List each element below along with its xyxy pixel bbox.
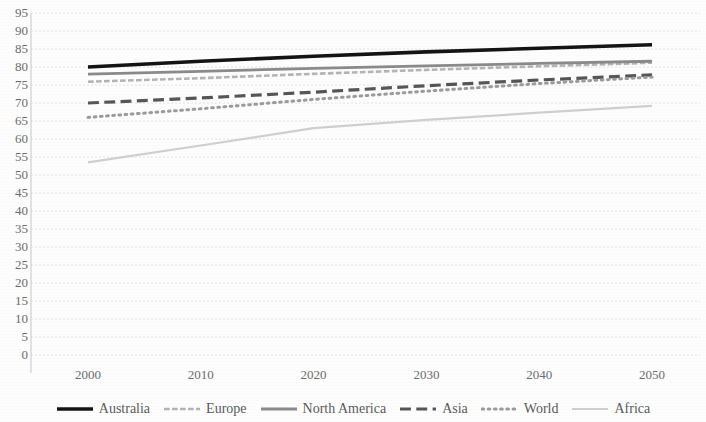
line-chart: 95908580757065605550454035302520151050 2… bbox=[0, 0, 706, 422]
legend-label: Africa bbox=[614, 402, 650, 416]
legend-swatch-africa-icon bbox=[571, 404, 609, 414]
legend-label: Europe bbox=[206, 402, 246, 416]
legend-label: North America bbox=[303, 402, 387, 416]
legend-label: Asia bbox=[442, 402, 468, 416]
legend-label: World bbox=[524, 402, 559, 416]
legend-swatch-world-icon bbox=[481, 404, 519, 414]
x-tick-label: 2030 bbox=[396, 368, 456, 381]
x-tick-label: 2000 bbox=[58, 368, 118, 381]
legend-item-world[interactable]: World bbox=[481, 402, 559, 416]
x-axis-tick-labels: 200020102020203020402050 bbox=[0, 0, 706, 422]
legend-swatch-north-america-icon bbox=[260, 404, 298, 414]
legend-swatch-asia-icon bbox=[399, 404, 437, 414]
x-tick-label: 2020 bbox=[284, 368, 344, 381]
legend-label: Australia bbox=[99, 402, 150, 416]
legend-item-europe[interactable]: Europe bbox=[163, 402, 246, 416]
x-tick-label: 2040 bbox=[509, 368, 569, 381]
legend-item-australia[interactable]: Australia bbox=[56, 402, 150, 416]
chart-legend: AustraliaEuropeNorth AmericaAsiaWorldAfr… bbox=[0, 398, 706, 420]
legend-item-africa[interactable]: Africa bbox=[571, 402, 650, 416]
legend-swatch-australia-icon bbox=[56, 404, 94, 414]
x-tick-label: 2010 bbox=[171, 368, 231, 381]
legend-swatch-europe-icon bbox=[163, 404, 201, 414]
legend-item-asia[interactable]: Asia bbox=[399, 402, 468, 416]
x-tick-label: 2050 bbox=[622, 368, 682, 381]
legend-item-north-america[interactable]: North America bbox=[260, 402, 387, 416]
